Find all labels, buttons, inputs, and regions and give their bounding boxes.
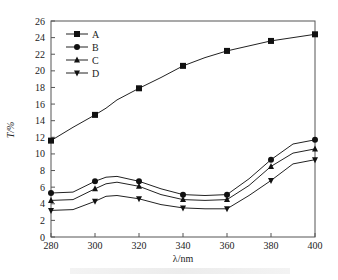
transmittance-chart: 0246810121416182022242628030032034036038… xyxy=(0,0,338,280)
y-tick-label: 16 xyxy=(35,99,45,110)
plot-series xyxy=(48,31,318,214)
svg-text:B: B xyxy=(92,42,99,53)
series-D xyxy=(48,157,318,214)
legend: ABCD xyxy=(66,29,100,79)
x-tick-label: 320 xyxy=(132,240,147,251)
legend-item-B: B xyxy=(66,42,99,53)
y-axis-label: T/% xyxy=(5,122,16,139)
y-tick-label: 6 xyxy=(40,182,45,193)
x-tick-label: 280 xyxy=(44,240,59,251)
figure-caption xyxy=(70,268,290,274)
plot-frame xyxy=(51,21,315,237)
x-axis-label: λ/nm xyxy=(173,253,194,264)
y-tick-label: 20 xyxy=(35,65,45,76)
series-B xyxy=(48,137,318,198)
y-tick-label: 24 xyxy=(35,32,45,43)
x-tick-label: 380 xyxy=(264,240,279,251)
x-tick-label: 360 xyxy=(220,240,235,251)
y-tick-label: 12 xyxy=(35,132,45,143)
y-tick-label: 26 xyxy=(35,16,45,27)
y-tick-label: 8 xyxy=(40,165,45,176)
series-A xyxy=(48,31,318,143)
x-tick-label: 300 xyxy=(88,240,103,251)
y-tick-label: 18 xyxy=(35,82,45,93)
y-tick-label: 4 xyxy=(40,198,45,209)
plot-axes: 0246810121416182022242628030032034036038… xyxy=(35,16,323,252)
legend-item-C: C xyxy=(66,55,99,66)
y-tick-label: 14 xyxy=(35,115,45,126)
y-tick-label: 2 xyxy=(40,215,45,226)
y-tick-label: 22 xyxy=(35,49,45,60)
legend-item-D: D xyxy=(66,68,99,79)
svg-text:C: C xyxy=(92,55,99,66)
svg-text:A: A xyxy=(92,29,100,40)
y-tick-label: 10 xyxy=(35,148,45,159)
legend-item-A: A xyxy=(66,29,100,40)
x-tick-label: 340 xyxy=(176,240,191,251)
svg-text:D: D xyxy=(92,68,99,79)
x-tick-label: 400 xyxy=(308,240,323,251)
